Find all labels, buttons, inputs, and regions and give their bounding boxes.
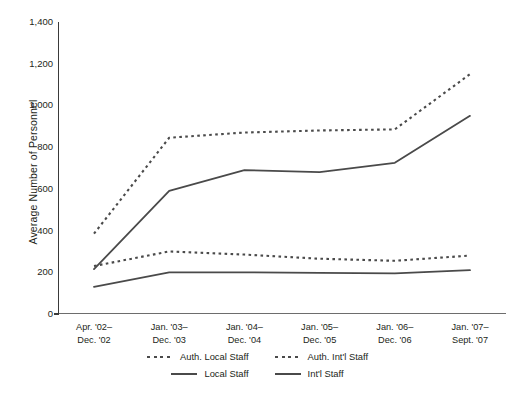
legend-item: Auth. Int'l Staff: [275, 351, 369, 362]
legend-item: Int'l Staff: [275, 368, 344, 379]
x-tick-label: Jan. '06–Dec. '06: [376, 321, 413, 346]
x-tick-label: Jan. '05–Dec. '05: [301, 321, 338, 346]
y-tick-label: 200: [37, 268, 53, 278]
x-tick-label: Apr. '02–Dec. '02: [76, 321, 112, 346]
legend-label: Local Staff: [204, 368, 248, 379]
x-tick-label: Jan. '04–Dec. '04: [226, 321, 263, 346]
dashed-line-icon: [147, 352, 173, 361]
chart-figure: Average Number of Personnel 020040060080…: [0, 0, 515, 397]
solid-line-icon: [171, 369, 197, 378]
series-line: [94, 251, 470, 266]
series-line: [94, 116, 470, 269]
y-tick-label: 1,400: [29, 17, 53, 27]
x-tick-label: Jan. '03–Dec. '03: [151, 321, 188, 346]
y-tick-label: 1,000: [29, 101, 53, 111]
x-tick-label: Jan. '07–Sept. '07: [451, 321, 488, 346]
legend-label: Auth. Local Staff: [180, 351, 249, 362]
plot-area: 02004006008001,0001,2001,400 Apr. '02–De…: [58, 22, 506, 314]
series-line: [94, 270, 470, 287]
y-tick-label: 0: [48, 309, 53, 319]
legend-label: Int'l Staff: [308, 368, 344, 379]
legend-item: Local Staff: [171, 368, 248, 379]
legend-label: Auth. Int'l Staff: [308, 351, 369, 362]
series-lines: [58, 22, 506, 314]
dashed-line-icon: [275, 352, 301, 361]
y-tick-label: 800: [37, 142, 53, 152]
chart-legend: Auth. Local StaffAuth. Int'l Staff Local…: [0, 348, 515, 382]
solid-line-icon: [275, 369, 301, 378]
legend-item: Auth. Local Staff: [147, 351, 249, 362]
legend-row-1: Auth. Local StaffAuth. Int'l Staff: [0, 348, 515, 365]
y-tick-label: 400: [37, 226, 53, 236]
y-tick-label: 600: [37, 184, 53, 194]
legend-row-2: Local StaffInt'l Staff: [0, 365, 515, 382]
y-tick-label: 1,200: [29, 59, 53, 69]
